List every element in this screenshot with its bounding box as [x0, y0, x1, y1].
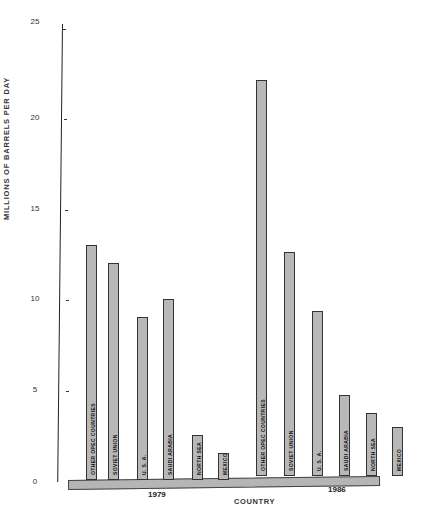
bar-1986-3: U. S. A. — [312, 311, 323, 476]
bar-label: SOVIET UNION — [112, 434, 118, 475]
bar-1986-2: SOVIET UNION — [284, 252, 295, 476]
y-tick-mark — [63, 29, 66, 30]
bar-1986-5: NORTH SEA — [366, 413, 377, 476]
bar-1979-5: NORTH SEA — [192, 435, 203, 480]
bar-1979-1: OTHER OPEC COUNTRIES — [86, 245, 97, 480]
y-tick-0: 0 — [25, 477, 45, 486]
y-tick-mark — [65, 210, 68, 211]
y-axis-label: MILLIONS OF BARRELS PER DAY — [2, 20, 11, 220]
y-tick-mark — [66, 391, 69, 392]
bar-1986-1: OTHER OPEC COUNTRIES — [256, 80, 267, 476]
bar-label: NORTH SEA — [370, 438, 376, 471]
bar-label: SOVIET UNION — [288, 430, 294, 471]
bar-label: U. S. A. — [316, 450, 322, 471]
y-tick-10: 10 — [25, 294, 45, 303]
bar-1986-4: SAUDI ARABIA — [339, 395, 350, 476]
bar-label: NORTH SEA — [196, 442, 202, 475]
y-tick-25: 25 — [25, 17, 45, 26]
bar-label: MEXICO — [396, 449, 402, 471]
bar-label: SAUDI ARABIA — [167, 434, 173, 475]
group-label-1979: 1979 — [148, 490, 166, 499]
bar-1979-6: MEXICO — [218, 453, 229, 480]
y-tick-20: 20 — [25, 113, 45, 122]
y-tick-5: 5 — [25, 385, 45, 394]
group-label-1986: 1986 — [328, 485, 346, 494]
bar-1979-2: SOVIET UNION — [108, 263, 119, 480]
y-tick-mark — [64, 119, 67, 120]
bar-label: SAUDI ARABIA — [343, 430, 349, 471]
bar-1986-6: MEXICO — [392, 427, 403, 476]
bar-1979-3: U. S. A. — [137, 317, 148, 480]
bar-label: U. S. A. — [141, 454, 147, 475]
bar-chart: MILLIONS OF BARRELS PER DAY 25 20 15 10 … — [0, 0, 434, 513]
bar-label: MEXICO — [222, 453, 228, 475]
bar-label: OTHER OPEC COUNTRIES — [90, 403, 96, 475]
bar-1979-4: SAUDI ARABIA — [163, 299, 174, 480]
y-axis-line — [57, 24, 63, 482]
y-tick-15: 15 — [25, 204, 45, 213]
y-tick-mark — [66, 300, 69, 301]
bar-label: OTHER OPEC COUNTRIES — [260, 399, 266, 471]
x-axis-label: COUNTRY — [234, 497, 275, 506]
